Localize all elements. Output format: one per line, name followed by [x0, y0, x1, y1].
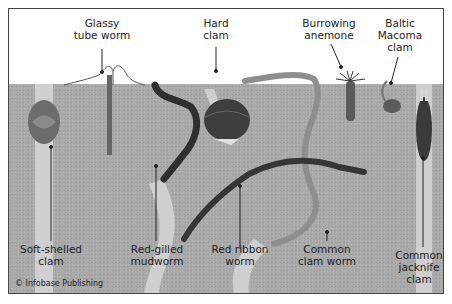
- burrowing-anemone-graphic: [336, 71, 365, 121]
- label-common-clam-worm: Common clam worm: [291, 243, 363, 267]
- soft-shelled-clam-graphic: [28, 100, 60, 144]
- leader-lines: [50, 44, 425, 249]
- label-burrowing-anemone: Burrowing anemone: [293, 17, 365, 41]
- label-hard-clam: Hard clam: [193, 17, 239, 41]
- hard-clam-graphic: [204, 99, 250, 145]
- label-red-ribbon-worm: Red ribbon worm: [204, 243, 276, 267]
- glassy-tube-worm-graphic: [64, 66, 145, 155]
- label-common-jacknife-clam: Common jacknife clam: [391, 249, 444, 285]
- label-soft-shelled-clam: Soft-shelled clam: [13, 243, 89, 267]
- diagram-frame: Glassy tube worm Hard clam Burrowing ane…: [8, 8, 444, 294]
- copyright-credit: © Infobase Publishing: [15, 279, 103, 288]
- label-baltic-macoma-clam: Baltic Macoma clam: [371, 17, 429, 53]
- mudworm-burrow: [144, 179, 175, 294]
- label-red-gilled-mudworm: Red-gilled mudworm: [121, 243, 193, 267]
- baltic-macoma-clam-graphic: [382, 81, 401, 113]
- red-gilled-mudworm-graphic: [155, 85, 197, 179]
- red-ribbon-worm-graphic: [184, 161, 364, 239]
- label-glassy-tube-worm: Glassy tube worm: [67, 17, 137, 41]
